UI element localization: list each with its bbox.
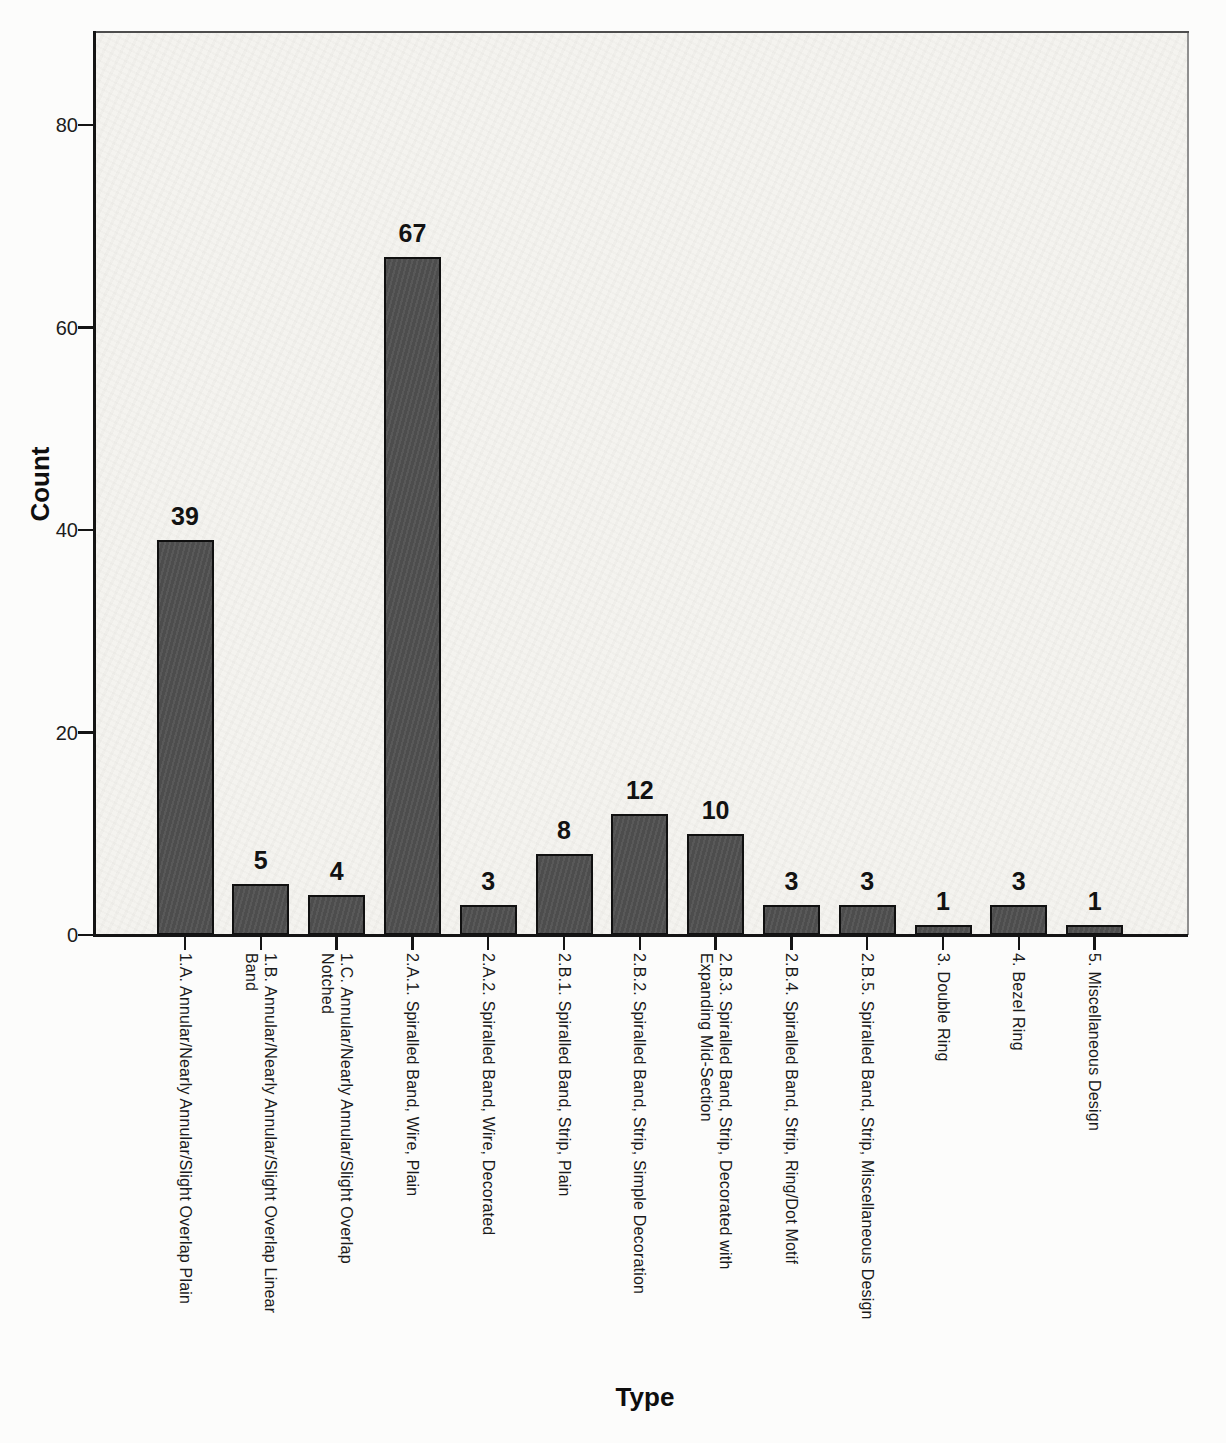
bar [611, 814, 668, 936]
x-tick [1018, 936, 1020, 950]
y-tick [78, 934, 93, 936]
x-tick [411, 936, 413, 950]
bar [460, 905, 517, 935]
x-tick [790, 936, 792, 950]
category-label: 1.C. Annular/Nearly Annular/Slight Overl… [318, 953, 356, 1383]
x-axis-title: Type [616, 1382, 675, 1413]
bar [384, 257, 441, 935]
bar-chart: 39546738121033131 0204060801.A. Annular/… [0, 0, 1226, 1443]
plot-frame-right [1187, 33, 1189, 935]
bar [990, 905, 1047, 935]
x-tick [942, 936, 944, 950]
category-label: 3. Double Ring [934, 953, 953, 1383]
bar [536, 854, 593, 935]
y-tick-label: 60 [18, 316, 78, 340]
x-tick [260, 936, 262, 950]
category-label: 1.A. Annular/Nearly Annular/Slight Overl… [176, 953, 195, 1383]
x-tick [563, 936, 565, 950]
y-tick [78, 326, 93, 328]
x-tick [639, 936, 641, 950]
y-tick-label: 0 [18, 923, 78, 947]
bar-value-label: 3 [443, 867, 533, 895]
category-label: 2.B.4. Spiralled Band, Strip, Ring/Dot M… [782, 953, 801, 1383]
bar [157, 540, 214, 935]
x-tick [487, 936, 489, 950]
bar-value-label: 10 [671, 796, 761, 824]
category-label: 2.B.1. Spiralled Band, Strip, Plain [555, 953, 574, 1383]
y-tick [78, 124, 93, 126]
bar [687, 834, 744, 935]
bar [839, 905, 896, 935]
bar-value-label: 4 [292, 857, 382, 885]
x-tick [335, 936, 337, 950]
category-label: 1.B. Annular/Nearly Annular/Slight Overl… [242, 953, 280, 1383]
bar-value-label: 8 [519, 816, 609, 844]
category-label: 2.B.3. Spiralled Band, Strip, Decorated … [697, 953, 735, 1383]
y-axis-title: Count [25, 446, 56, 521]
plot-frame-top [93, 31, 1189, 33]
category-label: 4. Bezel Ring [1009, 953, 1028, 1383]
y-tick [78, 731, 93, 733]
y-axis-line [93, 31, 96, 937]
category-label: 2.A.1. Spiralled Band, Wire, Plain [403, 953, 422, 1383]
x-tick [1093, 936, 1095, 950]
y-tick-label: 20 [18, 721, 78, 745]
bar [232, 884, 289, 935]
bar [763, 905, 820, 935]
bar-value-label: 1 [1050, 887, 1140, 915]
bar [308, 895, 365, 936]
y-tick-label: 80 [18, 113, 78, 137]
category-label: 2.B.5. Spiralled Band, Strip, Miscellane… [858, 953, 877, 1383]
x-tick [184, 936, 186, 950]
category-label: 2.A.2. Spiralled Band, Wire, Decorated [479, 953, 498, 1383]
category-label: 5. Miscellaneous Design [1085, 953, 1104, 1383]
category-label: 2.B.2. Spiralled Band, Strip, Simple Dec… [630, 953, 649, 1383]
x-tick [714, 936, 716, 950]
y-tick-label: 40 [18, 518, 78, 542]
bar-value-label: 67 [367, 219, 457, 247]
x-axis-line [93, 934, 1188, 937]
y-tick [78, 529, 93, 531]
x-tick [866, 936, 868, 950]
bar-value-label: 39 [140, 502, 230, 530]
